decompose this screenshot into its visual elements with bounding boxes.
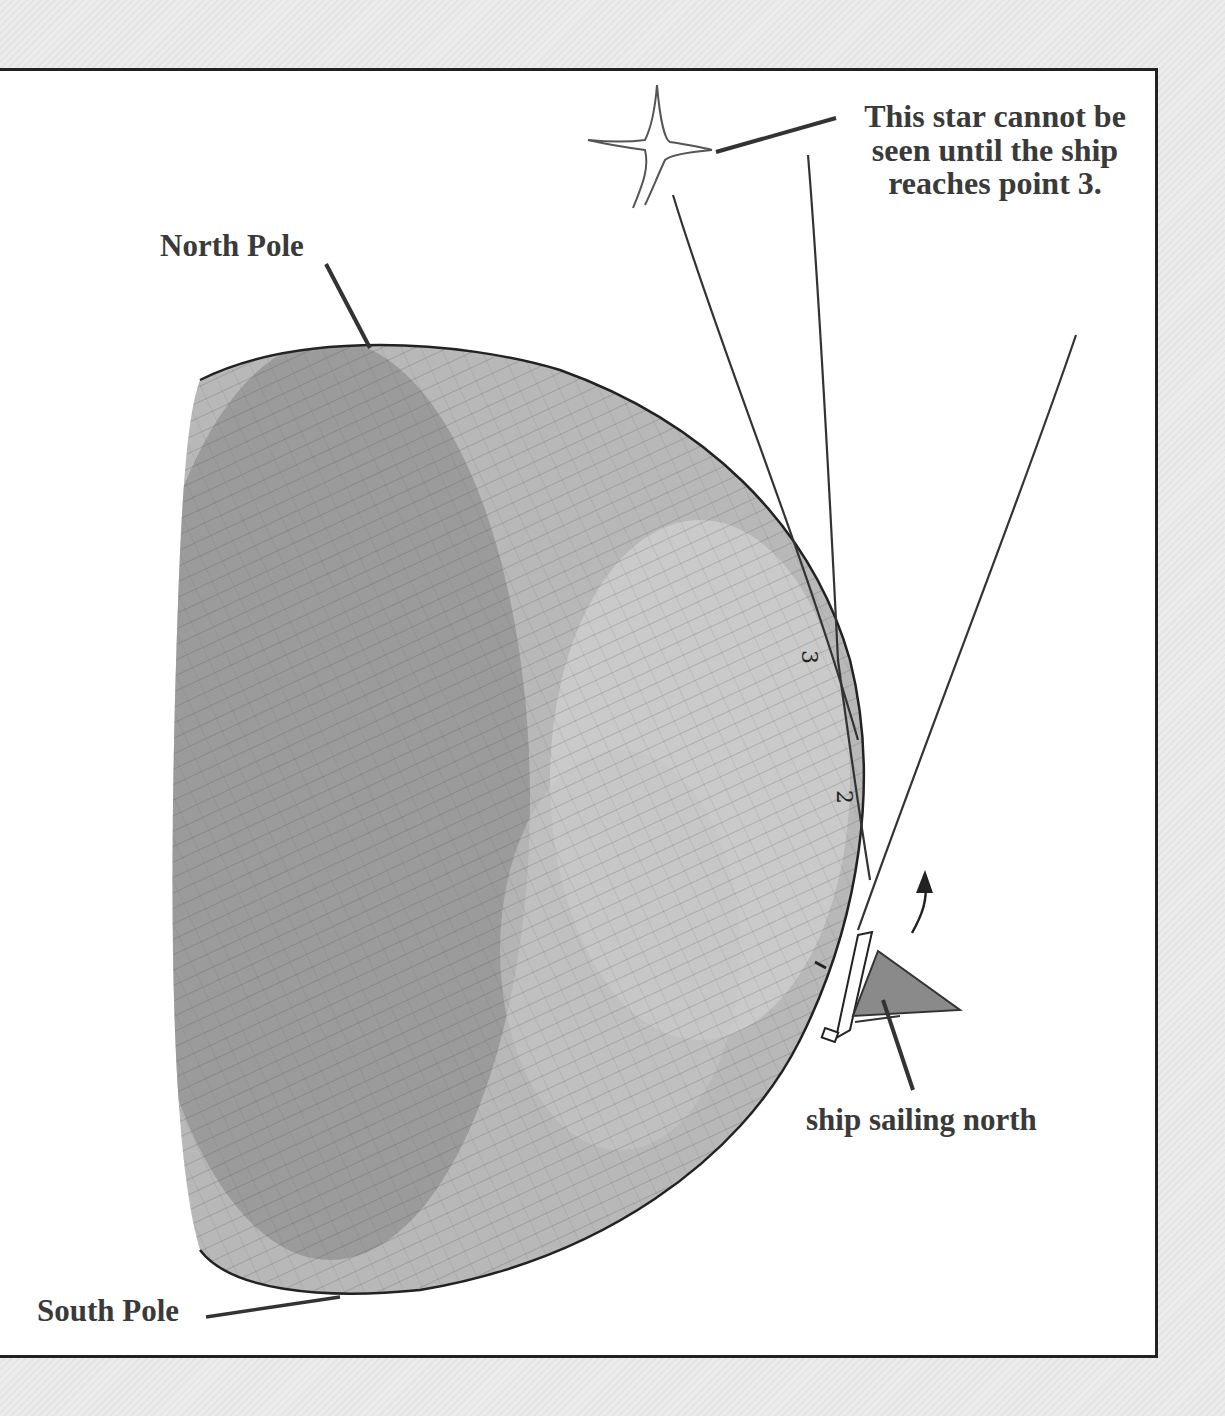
- diagram-canvas: 3 2: [0, 0, 1225, 1416]
- star-annotation-line: This star cannot be: [840, 100, 1150, 134]
- star-annotation-line: seen until the ship: [840, 134, 1150, 168]
- star-icon: [588, 85, 712, 208]
- star-leader-line: [716, 118, 836, 152]
- north-pole-leader-line: [326, 264, 370, 348]
- point-3-marker: 3: [797, 650, 822, 664]
- south-pole-label: South Pole: [37, 1295, 179, 1328]
- point-2-marker: 2: [832, 790, 857, 804]
- globe-illustration: [130, 320, 900, 1320]
- north-pole-label: North Pole: [160, 230, 304, 263]
- south-pole-leader-line: [206, 1297, 340, 1317]
- arrow-up-icon: [912, 870, 933, 933]
- star-annotation: This star cannot be seen until the ship …: [840, 100, 1150, 201]
- star-annotation-line: reaches point 3.: [840, 167, 1150, 201]
- ship-label: ship sailing north: [806, 1104, 1037, 1137]
